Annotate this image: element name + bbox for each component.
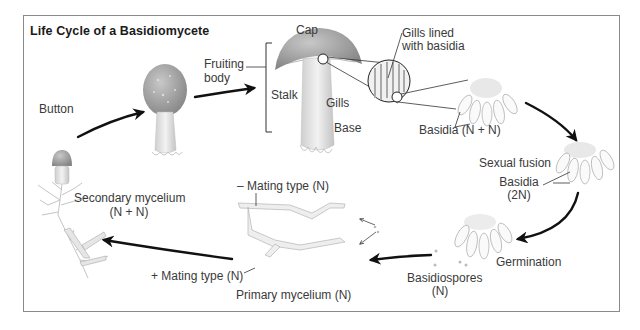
label-germination: Germination [496,256,561,269]
button-mushroom-icon [52,150,72,184]
primary-mycelium-icon [238,203,345,257]
label-basidia-nn: Basidia (N + N) [419,124,501,137]
label-stalk: Stalk [271,89,298,102]
label-plus-mating-type: + Mating type (N) [151,270,243,283]
label-fruiting-body-line2: body [204,72,230,85]
label-gills: Gills [326,97,349,110]
label-minus-mating-type: – Mating type (N) [237,180,329,193]
label-basidia-2n-line2: (2N) [494,189,544,202]
label-base: Base [334,122,361,135]
label-sexual-fusion: Sexual fusion [479,157,551,170]
label-fruiting-body-line1: Fruiting [204,58,244,71]
young-mushroom-icon [143,64,187,155]
basidia-2n-icon [553,142,616,184]
label-gills-lined-line2: with basidia [402,40,465,53]
label-primary-mycelium: Primary mycelium (N) [236,289,351,302]
label-secondary-mycelium-line2: (N + N) [74,206,184,219]
germination-basidia-icon [452,214,515,259]
label-button: Button [39,103,74,116]
label-cap: Cap [296,24,318,37]
basidia-nn-icon [455,78,520,126]
label-secondary-mycelium-line1: Secondary mycelium [74,192,185,205]
label-basidiospores-line2: (N) [407,285,473,298]
